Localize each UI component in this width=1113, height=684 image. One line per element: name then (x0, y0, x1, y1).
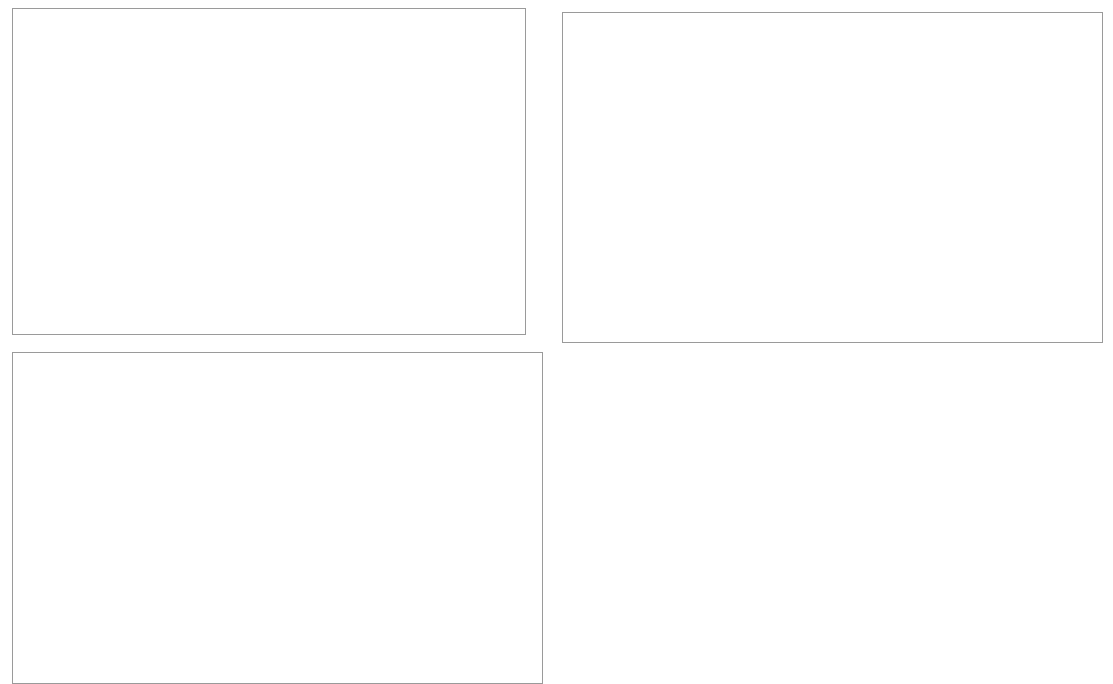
chart-panel-asini-arvanitia-2009 (12, 8, 526, 335)
plot-area (79, 431, 529, 676)
chart-panel-arvanitia-2011 (562, 12, 1103, 343)
plot-area (75, 64, 505, 324)
figure-page (0, 0, 1113, 684)
chart-panel-arvanitia-2012-4 (12, 352, 543, 684)
plot-area (641, 73, 1089, 338)
